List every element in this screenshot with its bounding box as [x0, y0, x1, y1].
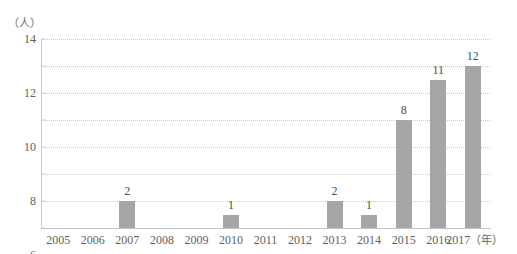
y-axis-tick-label: 12 — [24, 86, 36, 101]
bar-value-label: 2 — [107, 184, 147, 198]
bar-value-label: 12 — [453, 49, 493, 63]
bar[interactable] — [361, 215, 377, 229]
y-axis-tick-label: 14 — [24, 32, 36, 47]
gridline — [41, 201, 490, 202]
bar[interactable] — [465, 66, 481, 228]
gridline — [41, 147, 490, 148]
title-remnant-segment: 発生件数の推移 — [120, 0, 204, 1]
bar[interactable] — [119, 201, 135, 228]
gridline — [41, 39, 490, 40]
y-axis-tick-mark: 4 — [41, 174, 45, 175]
bar-value-label: 11 — [418, 63, 458, 77]
x-axis-tick-label: 2017（年） — [445, 232, 505, 248]
x-axis-unit-label: （年） — [470, 234, 503, 246]
y-axis-tick-label: 8 — [30, 194, 36, 209]
bar[interactable] — [396, 120, 412, 228]
title-remnant-segment: 年次 — [215, 0, 239, 1]
gridline — [41, 93, 490, 94]
gridline — [41, 120, 490, 121]
bar[interactable] — [327, 201, 343, 228]
y-axis-unit-label: （人） — [8, 17, 41, 29]
title-remnant-segment: 人数 — [315, 0, 339, 1]
y-axis-tick-label: 10 — [24, 140, 36, 155]
bar-value-label: 2 — [315, 184, 355, 198]
y-axis-tick-label: 6 — [30, 248, 36, 254]
bar-value-label: 1 — [211, 198, 251, 212]
bar-value-label: 1 — [349, 198, 389, 212]
y-axis-tick-mark: 2 — [41, 201, 45, 202]
y-axis-tick-mark: 6 — [41, 147, 45, 148]
bar[interactable] — [223, 215, 239, 229]
y-axis-tick-mark: 8 — [41, 120, 45, 121]
y-axis-tick-mark: 0 — [41, 228, 45, 229]
bar[interactable] — [430, 80, 446, 229]
clipped-title-remnant: 図表 発生件数の推移 年次 人数 — [0, 0, 517, 7]
bar-value-label: 8 — [384, 103, 424, 117]
title-remnant-segment: 図表 — [8, 0, 32, 1]
gridline — [41, 174, 490, 175]
y-axis-tick-mark: 14 — [41, 39, 45, 40]
x-axis-labels: 2005200620072008200920102011201220132014… — [41, 232, 490, 252]
y-axis-tick-mark: 10 — [41, 93, 45, 94]
plot-area: 02468101214212181112 — [41, 39, 490, 228]
x-axis-baseline — [41, 228, 491, 229]
y-axis-tick-mark: 12 — [41, 66, 45, 67]
